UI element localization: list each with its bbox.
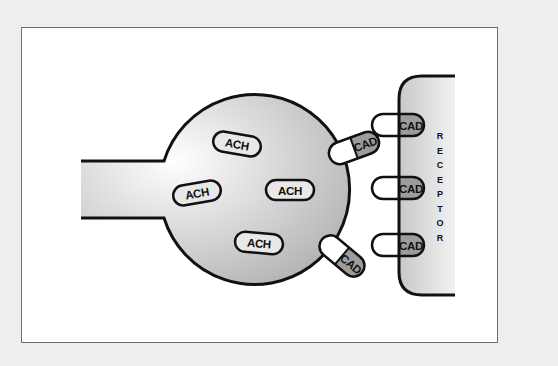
receptor-letter: R	[437, 131, 444, 141]
receptor-letter: O	[436, 218, 443, 228]
receptor-letter: C	[437, 160, 444, 170]
neuromuscular-junction-diagram: ACHACHACHACH CADCAD CADCADCAD RECEPTOR	[0, 0, 558, 366]
cad-label: CAD	[399, 120, 423, 132]
cad-label: CAD	[399, 183, 423, 195]
ach-label: ACH	[278, 185, 302, 197]
cad-molecule: CAD	[326, 129, 382, 167]
bound-cad-molecule: CAD	[372, 233, 424, 257]
receptor-letter: P	[437, 189, 443, 199]
ach-molecule: ACH	[234, 231, 284, 255]
ach-molecule: ACH	[266, 180, 314, 200]
bound-cad-molecules: CADCADCAD	[372, 113, 424, 257]
receptor-letter: E	[437, 146, 443, 156]
receptor-letter: T	[437, 204, 443, 214]
ach-label: ACH	[246, 236, 271, 250]
receptor-letter: R	[437, 233, 444, 243]
cad-molecule: CAD	[315, 231, 369, 281]
bound-cad-molecule: CAD	[372, 113, 424, 137]
receptor-letter: E	[437, 175, 443, 185]
bound-cad-molecule: CAD	[372, 176, 424, 200]
cad-label: CAD	[399, 240, 423, 252]
